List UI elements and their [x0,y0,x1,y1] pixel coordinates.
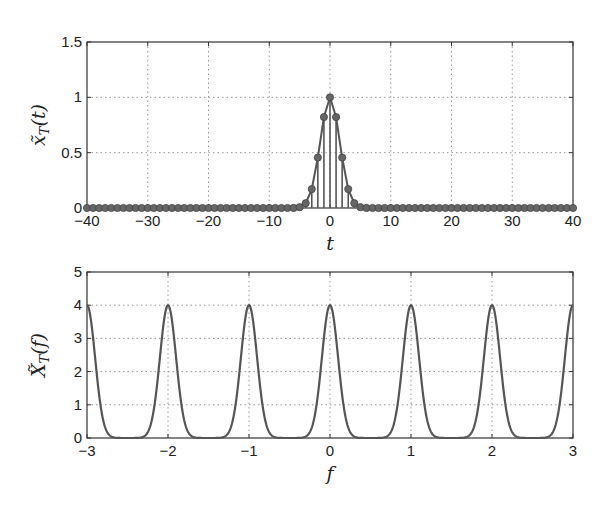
top-plot-xtick-label: −30 [135,212,160,229]
bottom-plot-xtick-label: 3 [569,442,577,459]
bottom-plot-xtick-label: −2 [159,442,176,459]
top-plot-ytick-label: 1.5 [61,33,82,50]
stem-marker [339,154,346,161]
top-plot-xtick-label: 30 [504,212,521,229]
top-plot-ytick-label: 0.5 [61,144,82,161]
top-plot-xtick-label: −20 [196,212,221,229]
stem-marker [320,113,327,120]
bottom-plot-ytick-label: 2 [74,363,82,380]
stem-marker [314,154,321,161]
stem-marker [302,200,309,207]
bottom-plot-ytick-label: 3 [74,329,82,346]
top-plot-xtick-label: −10 [257,212,282,229]
figure: −40−30−20−1001020304000.511.5tx̃T(t) −3−… [0,0,607,510]
bottom-plot-ytick-label: 0 [74,429,82,446]
stem-marker [308,185,315,192]
stem-marker [326,94,333,101]
top-plot-xtick-label: 10 [382,212,399,229]
bottom-plot-ytick-label: 5 [74,263,82,280]
bottom-plot-xtick-label: 2 [488,442,496,459]
bottom-plot-xtick-label: −1 [240,442,257,459]
stem-marker [345,185,352,192]
stem-series [83,94,576,212]
top-plot-xtick-label: 40 [565,212,582,229]
bottom-plot-xtick-label: 1 [407,442,415,459]
bottom-plot-ytick-label: 1 [74,396,82,413]
top-plot: −40−30−20−1001020304000.511.5tx̃T(t) [27,33,581,254]
top-plot-ylabel: x̃T(t) [27,104,52,146]
bottom-plot: −3−2−10123012345fX̃T(f) [27,263,577,484]
top-plot-xtick-label: 20 [443,212,460,229]
bottom-plot-ytick-label: 4 [74,296,82,313]
top-plot-ytick-label: 0 [74,199,82,216]
bottom-plot-xtick-label: 0 [326,442,334,459]
stem-marker [332,113,339,120]
bottom-plot-xlabel: f [324,462,336,484]
top-plot-xtick-label: 0 [326,212,334,229]
top-plot-xlabel: t [326,232,334,254]
stem-marker [569,204,576,211]
top-plot-ytick-label: 1 [74,88,82,105]
bottom-plot-ylabel: X̃T(f) [27,333,52,379]
